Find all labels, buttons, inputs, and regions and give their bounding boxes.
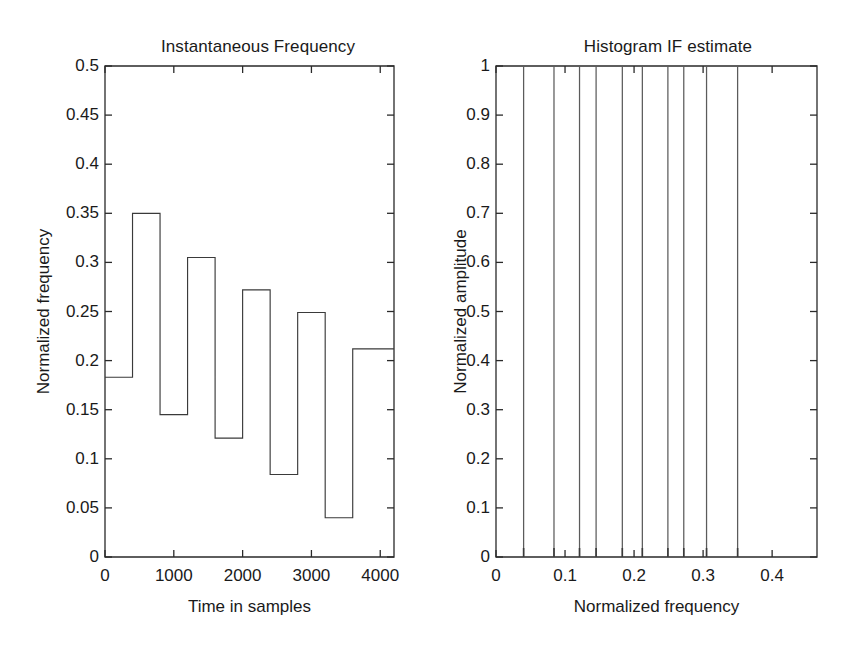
plot-panel-histogram-if-estimate: Histogram IF estimate Normalized amplitu…: [423, 0, 846, 660]
x-axis-label-right: Normalized frequency: [496, 597, 817, 617]
y-tick-label-right-1: 0.1: [398, 499, 490, 516]
y-tick-label-left-6: 0.3: [7, 253, 99, 270]
y-tick-label-left-3: 0.15: [7, 401, 99, 418]
y-tick-label-right-3: 0.3: [398, 401, 490, 418]
y-tick-label-right-9: 0.9: [398, 106, 490, 123]
x-tick-label-right-4: 0.4: [727, 567, 817, 584]
y-tick-label-right-8: 0.8: [398, 155, 490, 172]
y-tick-label-left-8: 0.4: [7, 155, 99, 172]
y-tick-label-right-7: 0.7: [398, 204, 490, 221]
y-tick-label-left-2: 0.1: [7, 450, 99, 467]
y-tick-label-right-10: 1: [398, 57, 490, 74]
y-tick-label-left-9: 0.45: [7, 106, 99, 123]
y-tick-label-left-4: 0.2: [7, 352, 99, 369]
y-tick-label-left-1: 0.05: [7, 499, 99, 516]
y-tick-label-left-10: 0.5: [7, 57, 99, 74]
axes-box-left: [105, 66, 394, 557]
y-tick-label-left-5: 0.25: [7, 303, 99, 320]
y-tick-label-right-5: 0.5: [398, 303, 490, 320]
y-tick-label-left-7: 0.35: [7, 204, 99, 221]
y-tick-label-right-2: 0.2: [398, 450, 490, 467]
y-tick-label-right-6: 0.6: [398, 253, 490, 270]
step-series-instantaneous-frequency: [105, 213, 394, 517]
plot-panel-instantaneous-frequency: Instantaneous Frequency Normalized frequ…: [0, 0, 423, 660]
y-tick-label-left-0: 0: [7, 548, 99, 565]
y-tick-label-right-4: 0.4: [398, 352, 490, 369]
x-tick-label-left-4: 4000: [335, 567, 425, 584]
y-tick-label-right-0: 0: [398, 548, 490, 565]
axes-box-right: [496, 66, 817, 557]
figure-canvas: Instantaneous Frequency Normalized frequ…: [0, 0, 846, 660]
x-axis-label-left: Time in samples: [105, 597, 394, 617]
